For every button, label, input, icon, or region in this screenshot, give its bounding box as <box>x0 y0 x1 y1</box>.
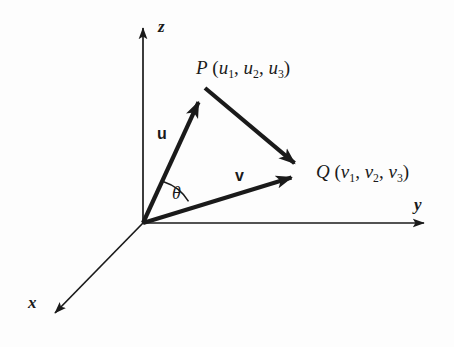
vector-diagram-figure: z y x P (u1, u2, u3) Q (v1, v2, v3) u v … <box>0 0 454 347</box>
point-p-component-3: u3 <box>268 57 283 78</box>
vector-pq-line <box>205 88 295 163</box>
point-q-label: Q (v1, v2, v3) <box>316 162 409 181</box>
point-q-comma-1: , <box>355 161 365 182</box>
point-q-component-2: v2 <box>365 161 379 182</box>
point-p-component-2: u2 <box>244 57 259 78</box>
point-p-close-paren: ) <box>284 57 290 78</box>
point-p-component-1: u1 <box>219 57 234 78</box>
vector-v-label: v <box>235 168 244 184</box>
vector-u-line <box>143 102 199 223</box>
vector-u-label: u <box>157 126 167 142</box>
angle-theta-label: θ <box>172 184 181 202</box>
point-p-open-paren: ( <box>208 57 219 78</box>
x-axis-label: x <box>28 294 37 311</box>
z-axis-label: z <box>158 18 165 35</box>
y-axis-label: y <box>414 196 422 213</box>
point-p-label: P (u1, u2, u3) <box>196 58 290 77</box>
point-p-name: P <box>196 57 208 78</box>
point-q-close-paren: ) <box>403 161 409 182</box>
vector-v-line <box>143 178 292 224</box>
point-q-name: Q <box>316 161 330 182</box>
x-axis-line <box>55 223 143 313</box>
point-q-open-paren: ( <box>330 161 341 182</box>
point-q-component-1: v1 <box>341 161 355 182</box>
point-p-comma-1: , <box>234 57 244 78</box>
point-q-component-3: v3 <box>388 161 402 182</box>
